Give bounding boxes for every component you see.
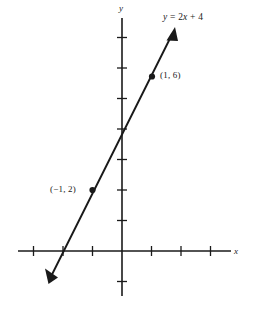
y-axis-label: y: [119, 3, 123, 13]
data-point-1-6: [149, 73, 155, 79]
data-point-neg1-2: [89, 187, 95, 193]
line-arrowhead-start: [45, 269, 58, 285]
point-label-neg1-2: (−1, 2): [50, 184, 76, 194]
equation-label: y = 2x + 4: [163, 12, 203, 22]
point-label-1-6: (1, 6): [160, 70, 181, 80]
plotted-line: [45, 27, 178, 284]
graph-figure: [0, 0, 253, 311]
line-arrowhead-end: [167, 27, 179, 41]
x-axis-label: x: [234, 246, 238, 256]
